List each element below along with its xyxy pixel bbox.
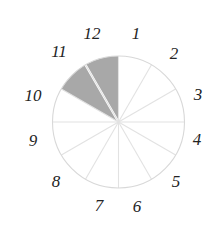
hour-spoke-8 <box>61 122 118 155</box>
clock-pie-chart <box>0 0 222 228</box>
clock-number-3: 3 <box>194 86 203 103</box>
shaded-sector-group <box>61 56 118 122</box>
hour-spoke-5 <box>119 122 152 179</box>
hour-spoke-1 <box>119 65 152 122</box>
clock-number-8: 8 <box>52 173 61 190</box>
clock-number-6: 6 <box>133 198 142 215</box>
clock-number-10: 10 <box>25 87 42 104</box>
clock-number-11: 11 <box>51 43 67 60</box>
hour-spoke-4 <box>119 122 176 155</box>
clock-number-4: 4 <box>193 131 202 148</box>
clock-number-2: 2 <box>170 45 179 62</box>
clock-number-5: 5 <box>172 173 181 190</box>
clock-number-7: 7 <box>95 197 104 214</box>
hour-spoke-2 <box>119 89 176 122</box>
screenshot-root: 121234567891011 <box>0 0 222 228</box>
hour-spoke-7 <box>86 122 119 179</box>
clock-number-9: 9 <box>29 132 38 149</box>
clock-number-12: 12 <box>84 25 101 42</box>
clock-number-1: 1 <box>132 25 141 42</box>
